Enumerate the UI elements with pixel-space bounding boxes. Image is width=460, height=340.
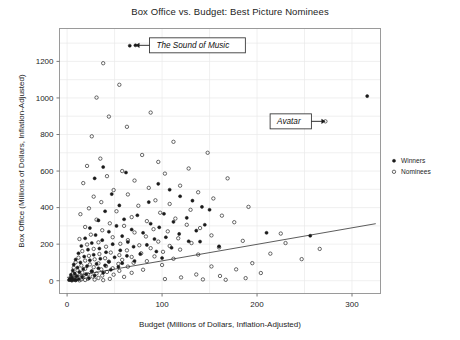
data-point [189, 208, 192, 211]
data-point [195, 273, 198, 276]
data-point [78, 237, 81, 240]
data-point [185, 216, 188, 219]
data-point [86, 248, 89, 251]
data-point [83, 259, 86, 262]
data-point [145, 219, 148, 222]
series-nominees [68, 62, 327, 283]
data-point [140, 153, 143, 156]
data-point [100, 200, 103, 203]
data-point [92, 253, 95, 256]
y-axis: 020040060080010001200 [36, 57, 60, 285]
data-point [132, 245, 135, 248]
y-tick-label: 1000 [36, 94, 54, 103]
data-point [200, 205, 203, 208]
data-point [178, 248, 181, 251]
data-point [153, 237, 156, 240]
data-point [101, 278, 104, 281]
data-point [203, 223, 206, 226]
data-point [154, 199, 157, 202]
data-point [196, 191, 199, 194]
x-tick-label: 200 [250, 300, 264, 309]
scatter-plot-canvas: 0100200300 020040060080010001200 Budget … [0, 0, 460, 340]
data-point [104, 210, 107, 213]
data-point [111, 236, 114, 239]
data-point [155, 250, 158, 253]
data-point [80, 264, 83, 267]
data-point [102, 165, 105, 168]
legend-label-nominees: Nominees [401, 168, 431, 175]
x-axis-title: Budget (Millions of Dollars, Inflation-A… [139, 320, 301, 329]
data-point [279, 232, 282, 235]
data-point [259, 271, 262, 274]
data-point [88, 259, 91, 262]
data-point [97, 241, 100, 244]
data-point [100, 268, 103, 271]
data-point [212, 197, 215, 200]
data-point [95, 96, 98, 99]
data-point [300, 257, 303, 260]
legend-marker-nominees [392, 170, 395, 173]
data-point [130, 271, 133, 274]
data-point [144, 235, 147, 238]
data-point [244, 276, 247, 279]
data-point [220, 214, 223, 217]
data-point [79, 212, 82, 215]
data-point [142, 231, 145, 234]
data-point [77, 252, 80, 255]
data-point [179, 195, 182, 198]
data-point [125, 254, 128, 257]
data-point [85, 164, 88, 167]
data-point [115, 224, 118, 227]
data-point [105, 174, 108, 177]
data-point [72, 266, 75, 269]
data-point [210, 265, 213, 268]
data-point [198, 226, 201, 229]
data-point [147, 201, 150, 204]
data-point [241, 239, 244, 242]
data-point [125, 125, 128, 128]
data-point [101, 274, 104, 277]
data-point [133, 179, 136, 182]
chart-figure: Box Office vs. Budget: Best Picture Nomi… [0, 0, 460, 340]
data-point [119, 249, 122, 252]
data-point [128, 44, 131, 47]
data-point [218, 274, 221, 277]
annotation-label: The Sound of Music [156, 41, 229, 50]
data-point [98, 247, 101, 250]
data-point [121, 235, 124, 238]
data-point [178, 184, 181, 187]
data-point [168, 244, 171, 247]
data-point [199, 240, 202, 243]
data-point [126, 193, 129, 196]
data-point [107, 115, 110, 118]
data-point [111, 243, 114, 246]
data-point [115, 210, 118, 213]
y-tick-label: 400 [40, 203, 54, 212]
data-point [87, 207, 90, 210]
annotation-the-sound-of-music: The Sound of Music [135, 38, 245, 53]
data-point [141, 268, 144, 271]
data-point [92, 247, 95, 250]
data-point [195, 229, 198, 232]
data-point [136, 214, 139, 217]
data-point [83, 278, 86, 281]
data-point [124, 171, 127, 174]
data-point [133, 231, 136, 234]
data-point [179, 276, 182, 279]
data-point [110, 193, 113, 196]
data-point [210, 234, 213, 237]
data-point [89, 233, 92, 236]
data-point [82, 181, 85, 184]
data-point [88, 263, 91, 266]
data-point [101, 239, 104, 242]
data-point [119, 242, 122, 245]
data-point [84, 237, 87, 240]
data-point [85, 243, 88, 246]
annotations-layer: The Sound of MusicAvatar [135, 38, 325, 129]
data-point [83, 255, 86, 258]
y-axis-title: Box Office (Millions of Dollars, Inflati… [17, 74, 26, 248]
chart-legend: WinnersNominees [392, 157, 431, 175]
x-axis: 0100200300 [65, 294, 359, 309]
data-point [99, 257, 102, 260]
data-point [157, 182, 160, 185]
